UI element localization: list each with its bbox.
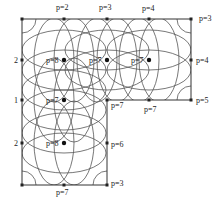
node-label: p=8 bbox=[46, 140, 59, 148]
node-label: p=3 bbox=[99, 4, 112, 12]
node-label: 1 bbox=[14, 97, 18, 105]
boundary-node bbox=[21, 59, 24, 62]
node-label: p=3 bbox=[199, 15, 212, 23]
node-label: p=7 bbox=[56, 189, 69, 197]
node-label: p=4 bbox=[142, 5, 155, 13]
node-label: p=3 bbox=[111, 180, 124, 188]
interior-node bbox=[147, 58, 151, 62]
boundary-node bbox=[190, 59, 193, 62]
node-label: p=8 bbox=[46, 57, 59, 65]
boundary-node bbox=[63, 18, 66, 21]
boundary-node bbox=[21, 142, 24, 145]
interior-node bbox=[62, 141, 66, 145]
node-label: p=5 bbox=[196, 97, 209, 105]
node-label: p=6 bbox=[111, 141, 124, 149]
node-label: p=7 bbox=[131, 57, 144, 65]
boundary-node bbox=[106, 18, 109, 21]
node-label: p=7 bbox=[89, 57, 102, 65]
boundary-node bbox=[63, 184, 66, 187]
node-label: p=7 bbox=[46, 97, 59, 105]
node-label: 2 bbox=[14, 140, 18, 148]
boundary-node bbox=[21, 184, 24, 187]
boundary-node bbox=[106, 99, 109, 102]
interior-node bbox=[62, 98, 66, 102]
boundary-node bbox=[21, 18, 24, 21]
node-label: p=4 bbox=[196, 57, 209, 65]
boundary-node bbox=[106, 142, 109, 145]
interior-node bbox=[62, 58, 66, 62]
node-label: p=7 bbox=[144, 106, 157, 114]
node-label: p=2 bbox=[56, 4, 69, 12]
boundary-node bbox=[190, 18, 193, 21]
interior-node bbox=[105, 58, 109, 62]
boundary-node bbox=[106, 184, 109, 187]
node-label: 2 bbox=[14, 57, 18, 65]
boundary-node bbox=[21, 99, 24, 102]
boundary-node bbox=[148, 99, 151, 102]
boundary-node bbox=[148, 18, 151, 21]
lattice-diagram bbox=[0, 0, 223, 197]
boundary-node bbox=[190, 99, 193, 102]
node-label: p=7 bbox=[111, 102, 124, 110]
